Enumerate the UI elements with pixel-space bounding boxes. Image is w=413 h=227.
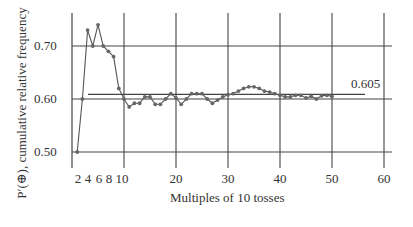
data-point: [278, 93, 282, 97]
data-point: [96, 23, 100, 27]
data-point: [237, 89, 241, 93]
data-point: [81, 97, 85, 101]
data-point: [325, 93, 329, 97]
data-point: [138, 101, 142, 105]
data-point: [231, 92, 235, 96]
data-point: [299, 93, 303, 97]
data-point: [164, 97, 168, 101]
data-point: [101, 44, 105, 48]
data-point: [221, 95, 225, 99]
data-point: [148, 95, 152, 99]
data-point: [283, 95, 287, 99]
data-point: [252, 85, 256, 89]
y-tick-label: 0.60: [34, 91, 57, 107]
series-line: [77, 25, 332, 152]
x-tick-label: 10: [107, 171, 137, 187]
x-tick-label: 50: [317, 171, 347, 187]
data-point: [304, 96, 308, 100]
data-point: [117, 87, 121, 91]
x-tick-label: 30: [213, 171, 243, 187]
data-point: [91, 44, 95, 48]
y-tick-label: 0.50: [34, 144, 57, 160]
data-point: [216, 98, 220, 102]
data-point: [185, 97, 189, 101]
data-point: [242, 87, 246, 91]
data-point: [263, 89, 267, 93]
data-point: [330, 94, 334, 98]
data-point: [174, 96, 178, 100]
data-point: [294, 93, 298, 97]
data-point: [107, 49, 111, 53]
data-point: [315, 97, 319, 101]
data-point: [273, 92, 277, 96]
data-point: [112, 55, 116, 59]
data-point: [190, 92, 194, 96]
data-series: [75, 23, 334, 154]
data-point: [169, 92, 173, 96]
data-point: [247, 85, 251, 89]
data-point: [143, 95, 147, 99]
data-point: [309, 94, 313, 98]
x-tick-label: 20: [161, 171, 191, 187]
data-point: [122, 97, 126, 101]
data-point: [159, 102, 163, 106]
x-axis-label: Multiples of 10 tosses: [170, 190, 284, 206]
y-tick-label: 0.70: [34, 38, 57, 54]
data-point: [179, 102, 183, 106]
data-point: [211, 101, 215, 105]
data-point: [75, 150, 79, 154]
data-point: [195, 92, 199, 96]
data-point: [133, 101, 137, 105]
data-point: [257, 87, 261, 91]
x-tick-label: 40: [265, 171, 295, 187]
data-point: [226, 93, 230, 97]
y-axis-label: P′(⊕), cumulative relative frequency: [14, 0, 34, 213]
data-point: [153, 102, 157, 106]
reference-value-label: 0.605: [351, 76, 380, 92]
data-point: [205, 97, 209, 101]
data-point: [86, 28, 90, 32]
data-point: [320, 94, 324, 98]
data-point: [200, 92, 204, 96]
data-point: [289, 95, 293, 99]
x-tick-label: 60: [369, 171, 399, 187]
data-point: [127, 105, 131, 109]
data-point: [268, 90, 272, 94]
